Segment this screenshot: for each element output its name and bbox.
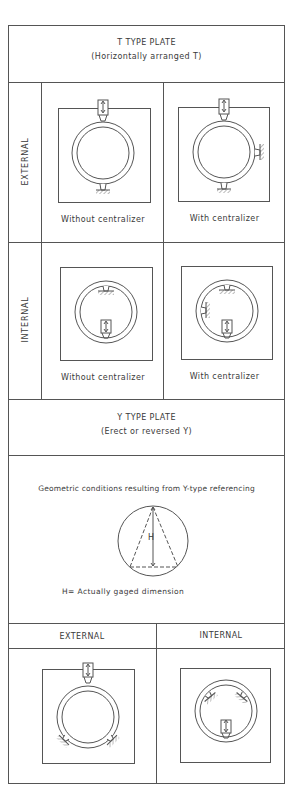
geometry-caption: Geometric conditions resulting from Y-ty…	[8, 484, 285, 493]
t-internal-with-centralizer-figure	[182, 267, 273, 360]
y-plate-title: Y TYPE PLATE	[8, 413, 285, 422]
t-external-without-centralizer-figure	[59, 100, 151, 203]
y-internal-figure	[181, 669, 271, 763]
caption-internal-without-centralizer: Without centralizer	[42, 373, 164, 382]
caption-external-without-centralizer: Without centralizer	[42, 215, 164, 224]
column-label-external: EXTERNAL	[8, 632, 156, 641]
caption-external-with-centralizer: With centralizer	[164, 214, 285, 223]
y-plate-subtitle: (Erect or reversed Y)	[8, 427, 285, 436]
t-internal-without-centralizer-figure	[61, 268, 153, 361]
diagram-linework	[0, 0, 303, 792]
t-plate-title: T TYPE PLATE	[8, 38, 285, 47]
caption-internal-with-centralizer: With centralizer	[164, 372, 285, 381]
t-external-with-centralizer-figure	[179, 99, 270, 202]
h-legend: H= Actually gaged dimension	[62, 587, 184, 596]
row-label-external: EXTERNAL	[21, 122, 30, 202]
t-plate-subtitle: (Horizontally arranged T)	[8, 52, 285, 61]
column-label-internal: INTERNAL	[157, 631, 285, 640]
y-external-figure	[43, 663, 135, 764]
row-label-internal: INTERNAL	[21, 280, 30, 360]
h-symbol: H	[148, 533, 154, 542]
